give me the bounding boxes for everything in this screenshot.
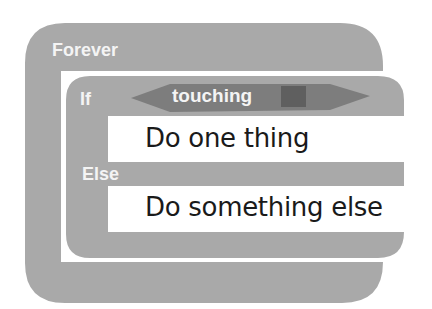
else-slot-text: Do something else bbox=[145, 192, 383, 222]
if-label: If bbox=[80, 89, 91, 110]
else-slot: Do something else bbox=[108, 186, 408, 232]
touching-label: touching bbox=[172, 85, 252, 107]
else-label: Else bbox=[82, 164, 119, 185]
forever-label: Forever bbox=[52, 40, 118, 61]
then-slot-text: Do one thing bbox=[145, 123, 309, 153]
color-swatch[interactable] bbox=[281, 86, 306, 107]
then-slot: Do one thing bbox=[108, 116, 408, 162]
